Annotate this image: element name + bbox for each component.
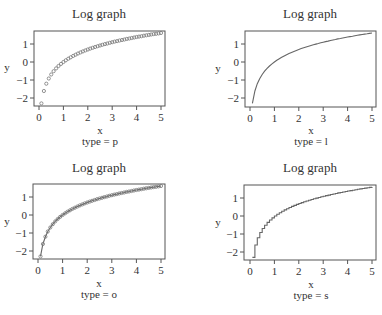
data-series <box>252 187 372 257</box>
y-axis: −2−101 <box>226 192 244 258</box>
y-tick-label: 1 <box>23 38 29 50</box>
y-tick-label: 0 <box>233 210 239 222</box>
y-tick-label: −2 <box>227 92 239 104</box>
log-graph-figure: Log graph 012345 −2−101 y x type = p Log… <box>0 0 382 315</box>
y-axis-label: y <box>4 215 10 227</box>
y-axis: −2−101 <box>227 38 245 104</box>
x-tick-label: 4 <box>345 112 351 124</box>
y-axis-label: y <box>215 216 221 228</box>
panel-caption: type = s <box>294 289 329 301</box>
x-tick-label: 4 <box>345 265 351 277</box>
series-line <box>252 33 372 103</box>
x-tick-label: 2 <box>84 264 90 276</box>
panel-type-o: Log graph 012345 −2−101 y x type = o <box>4 160 165 300</box>
x-tick-label: 5 <box>369 265 375 277</box>
x-tick-label: 5 <box>158 111 164 123</box>
data-series <box>39 184 163 258</box>
panel-type-l: Log graph 012345 −2−101 y x type = l <box>215 6 376 147</box>
x-axis: 012345 <box>35 259 164 276</box>
y-axis-label: y <box>4 61 10 73</box>
y-tick-label: −1 <box>15 227 27 239</box>
x-tick-label: 1 <box>60 264 66 276</box>
panel-caption: type = l <box>294 135 328 147</box>
x-tick-label: 3 <box>320 265 326 277</box>
y-tick-label: −2 <box>15 245 27 257</box>
x-tick-label: 2 <box>85 111 91 123</box>
y-tick-label: 0 <box>234 56 240 68</box>
plot-frame <box>33 184 165 259</box>
x-axis: 012345 <box>36 106 164 123</box>
panel-type-p: Log graph 012345 −2−101 y x type = p <box>4 6 165 147</box>
x-tick-label: 1 <box>61 111 67 123</box>
x-tick-label: 1 <box>272 265 278 277</box>
x-tick-label: 1 <box>272 112 278 124</box>
data-point <box>50 73 53 76</box>
plot-frame <box>244 185 376 260</box>
data-point <box>47 77 50 80</box>
x-tick-label: 3 <box>320 112 326 124</box>
y-tick-label: 1 <box>234 38 240 50</box>
x-tick-label: 0 <box>35 264 41 276</box>
y-axis: −2−101 <box>15 191 33 257</box>
y-tick-label: −2 <box>16 92 28 104</box>
x-tick-label: 4 <box>134 111 140 123</box>
series-step-line <box>252 187 372 257</box>
x-tick-label: 5 <box>369 112 375 124</box>
panel-title: Log graph <box>72 160 126 175</box>
plot-frame <box>34 31 165 106</box>
panel-title: Log graph <box>72 6 126 21</box>
y-tick-label: −1 <box>16 74 28 86</box>
panel-caption: type = p <box>82 135 119 147</box>
x-tick-label: 2 <box>296 112 302 124</box>
panel-caption: type = o <box>81 288 118 300</box>
panel-title: Log graph <box>283 6 337 21</box>
x-tick-label: 0 <box>36 111 42 123</box>
y-tick-label: 1 <box>233 192 239 204</box>
y-tick-label: 1 <box>22 191 28 203</box>
y-axis-label: y <box>215 62 221 74</box>
x-tick-label: 5 <box>158 264 164 276</box>
x-tick-label: 3 <box>109 111 115 123</box>
x-tick-label: 4 <box>134 264 140 276</box>
panel-type-s: Log graph 012345 −2−101 y x type = s <box>215 160 376 301</box>
x-tick-label: 3 <box>109 264 115 276</box>
y-axis: −2−101 <box>16 38 34 104</box>
y-tick-label: −1 <box>227 74 239 86</box>
x-axis: 012345 <box>247 107 375 124</box>
y-tick-label: 0 <box>22 209 28 221</box>
x-tick-label: 2 <box>296 265 302 277</box>
y-tick-label: 0 <box>23 56 29 68</box>
x-axis: 012345 <box>247 260 375 277</box>
data-point <box>45 82 48 85</box>
y-tick-label: −2 <box>226 246 238 258</box>
x-tick-label: 0 <box>247 112 253 124</box>
panel-title: Log graph <box>283 160 337 175</box>
data-point <box>52 70 55 73</box>
data-series <box>252 33 372 103</box>
x-tick-label: 0 <box>247 265 253 277</box>
data-point <box>42 89 45 92</box>
data-point <box>40 102 43 105</box>
y-tick-label: −1 <box>226 228 238 240</box>
data-series <box>40 31 163 105</box>
plot-frame <box>245 31 376 107</box>
